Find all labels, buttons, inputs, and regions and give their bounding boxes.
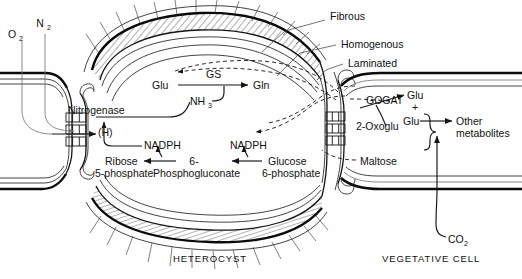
label-carbon-dioxide: CO 2 [448, 233, 468, 247]
label-gs-enzyme: GS [206, 68, 221, 80]
co2-tail [436, 225, 446, 237]
dashed-arrow-to-glucose [256, 96, 345, 132]
label-nadph-right: NADPH [230, 139, 267, 151]
label-reductant: (H) [98, 126, 113, 138]
label-glucose: Glucose [268, 155, 307, 167]
label-vegetative-cell: VEGETATIVE CELL [382, 253, 480, 264]
label-glutamine: Gln [253, 79, 270, 91]
label-fibrous: Fibrous [330, 10, 365, 22]
label-homogenous: Homogenous [341, 38, 403, 50]
label-ribose: Ribose [105, 155, 138, 167]
heterocyst-top-envelope [84, 0, 330, 101]
label-gogat-enzyme: GOGAT [366, 94, 404, 106]
label-glutamate-heterocyst: Glu [152, 79, 169, 91]
diagram-canvas: O 2 N 2 CO 2 Fibrous Homogenous Laminate… [0, 0, 522, 279]
nadph-to-reductant-path [104, 140, 142, 146]
oxygen-subscript: 2 [19, 35, 23, 42]
label-nadph-left: NADPH [144, 139, 181, 151]
label-ribose-phosphate: 5-phosphate [95, 167, 154, 179]
nitrogen-subscript: 2 [47, 24, 51, 31]
right-pore-channels [326, 112, 345, 145]
label-glutamate-bottom: Glu [403, 115, 420, 127]
label-ammonia: NH 3 [190, 95, 212, 109]
co2-uptake-arrow [436, 136, 437, 225]
label-glucose-phosphate: 6-phosphate [262, 167, 321, 179]
label-metabolites: metabolites [456, 127, 510, 139]
label-six: 6- [189, 155, 199, 167]
left-junction-pore [65, 84, 94, 179]
left-vegetative-cell-wall [0, 73, 67, 189]
diagram-figure: O 2 N 2 CO 2 Fibrous Homogenous Laminate… [0, 0, 522, 279]
metabolite-brace [424, 114, 436, 150]
label-nitrogen: N 2 [36, 17, 51, 31]
nitrogen-arrow-path [45, 34, 74, 131]
label-laminated: Laminated [348, 57, 397, 69]
label-other: Other [456, 115, 483, 127]
label-oxoglutarate: 2-Oxoglu [356, 120, 399, 132]
label-nitrogenase: Nitrogenase [68, 104, 125, 116]
oxygen-label: O [8, 28, 16, 40]
label-oxygen: O 2 [8, 28, 23, 42]
ammonia-to-gs-path [212, 86, 224, 101]
label-plus: + [412, 101, 418, 113]
label-phosphogluconate: Phosphogluconate [153, 167, 240, 179]
label-maltose: Maltose [360, 155, 397, 167]
ammonia-subscript: 3 [208, 102, 212, 109]
label-glutamate-top: Glu [407, 89, 424, 101]
oxygen-arrow-path [22, 40, 52, 134]
co2-subscript: 2 [464, 240, 468, 247]
ammonia-label: NH [190, 95, 205, 107]
label-heterocyst-cell: HETEROCYST [173, 253, 247, 264]
co2-label: CO [448, 233, 464, 245]
nitrogen-label: N [36, 17, 44, 29]
